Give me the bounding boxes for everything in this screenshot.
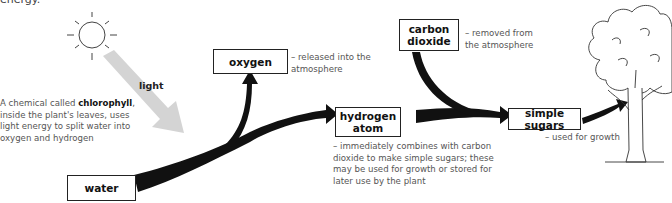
simple-sugars-box: simple sugars bbox=[508, 108, 581, 130]
water-label: water bbox=[84, 182, 118, 194]
hydrogen-note: – immediately combines with carbon dioxi… bbox=[333, 141, 513, 187]
oxygen-box: oxygen bbox=[213, 49, 288, 74]
hydrogen-label-line2: atom bbox=[353, 122, 383, 134]
carbon-label-line2: dioxide bbox=[407, 35, 450, 47]
chlorophyll-emphasis: chlorophyll bbox=[78, 98, 132, 108]
photosynthesis-diagram: energy. bbox=[0, 0, 672, 203]
chlorophyll-note: A chemical called chlorophyll, inside th… bbox=[0, 98, 140, 144]
simple-sugars-note: – used for growth bbox=[545, 132, 635, 144]
water-box: water bbox=[67, 175, 136, 201]
carbon-label-line1: carbon bbox=[409, 23, 450, 35]
light-label: light bbox=[139, 80, 164, 91]
simple-sugars-label: simple sugars bbox=[509, 107, 580, 131]
hydrogen-label-line1: hydrogen bbox=[340, 110, 396, 122]
carbon-dioxide-box: carbon dioxide bbox=[399, 19, 459, 51]
oxygen-note: – released into the atmosphere bbox=[291, 52, 381, 75]
sugars-to-tree-arrow bbox=[582, 99, 628, 124]
oxygen-label: oxygen bbox=[229, 56, 272, 68]
chlorophyll-note-prefix: A chemical called bbox=[0, 98, 78, 108]
hydrogen-atom-box: hydrogen atom bbox=[335, 107, 401, 137]
carbon-dioxide-note: – removed from the atmosphere bbox=[465, 28, 545, 51]
carbon-to-sugars-arrow bbox=[412, 52, 480, 117]
